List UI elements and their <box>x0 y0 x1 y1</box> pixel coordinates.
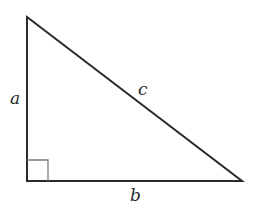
side-b-label: b <box>130 185 141 205</box>
side-a-label: a <box>10 88 20 108</box>
right-angle-marker <box>27 160 48 181</box>
triangle-outline <box>27 17 242 181</box>
right-triangle-diagram: a c b <box>0 0 253 210</box>
hypotenuse-c-label: c <box>138 79 148 99</box>
